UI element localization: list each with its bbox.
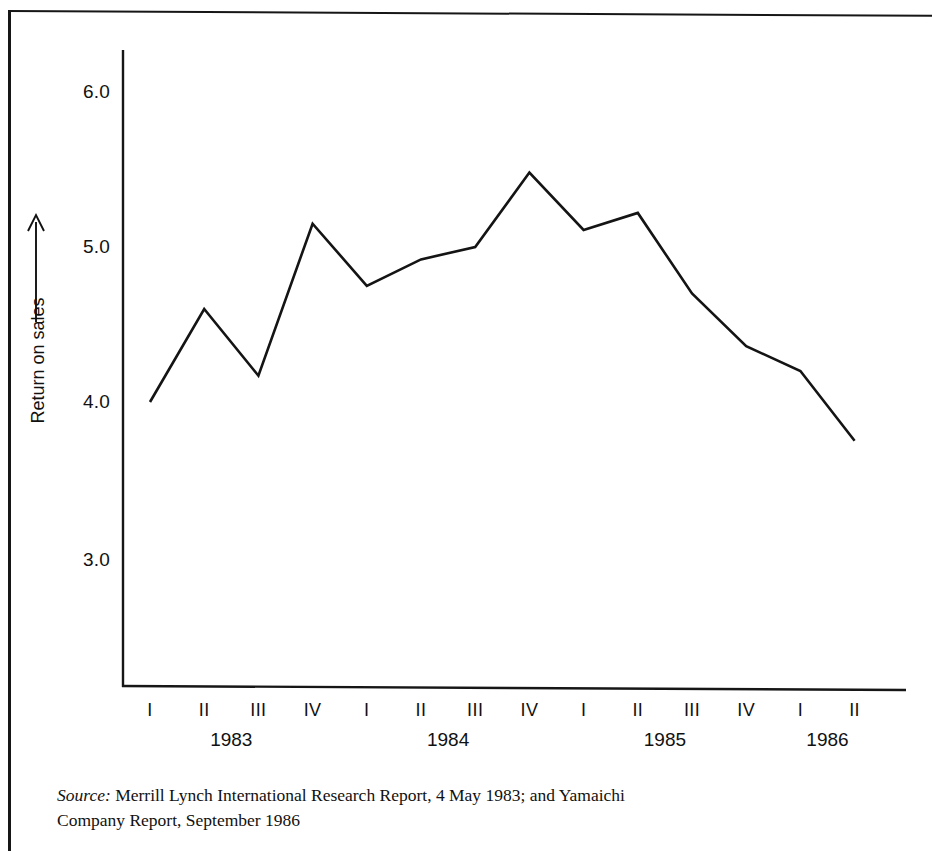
- x-tick-label-quarter: IV: [716, 700, 776, 721]
- chart-plot-svg: [0, 0, 932, 700]
- x-tick-label-quarter: IV: [499, 700, 559, 721]
- x-tick-label-quarter: III: [228, 700, 288, 721]
- line-chart: 6.0 5.0 4.0 3.0 Return on sales IIIIIIIV…: [0, 0, 932, 700]
- figure-page: 6.0 5.0 4.0 3.0 Return on sales IIIIIIIV…: [0, 0, 932, 851]
- y-tick-label: 3.0: [50, 549, 110, 571]
- x-tick-label-quarter: I: [120, 700, 180, 721]
- x-tick-label-quarter: II: [391, 700, 451, 721]
- x-tick-label-quarter: II: [174, 700, 234, 721]
- x-axis-year-label: 1983: [186, 729, 276, 751]
- x-year-labels: 1983198419851986: [0, 729, 932, 761]
- x-axis-line: [122, 686, 906, 690]
- x-axis-year-label: 1986: [783, 729, 873, 751]
- x-tick-label-quarter: II: [825, 700, 885, 721]
- y-axis-title-block: Return on sales: [10, 200, 70, 540]
- source-note: Source: Merrill Lynch International Rese…: [57, 783, 897, 834]
- source-note-text: Merrill Lynch International Research Rep…: [115, 785, 625, 805]
- x-tick-label-quarter: IV: [283, 700, 343, 721]
- source-note-text-line2: Company Report, September 1986: [57, 808, 897, 833]
- x-axis-year-label: 1985: [620, 729, 710, 751]
- x-tick-label-quarter: I: [770, 700, 830, 721]
- y-axis-title: Return on sales: [28, 271, 49, 451]
- x-tick-label-quarter: I: [554, 700, 614, 721]
- return-on-sales-series: [150, 173, 855, 441]
- x-tick-label-quarter: III: [662, 700, 722, 721]
- x-tick-label-quarter: III: [445, 700, 505, 721]
- source-note-label: Source:: [57, 785, 111, 805]
- x-tick-label-quarter: I: [337, 700, 397, 721]
- x-axis-year-label: 1984: [403, 729, 493, 751]
- y-tick-label: 6.0: [50, 81, 110, 103]
- x-tick-label-quarter: II: [608, 700, 668, 721]
